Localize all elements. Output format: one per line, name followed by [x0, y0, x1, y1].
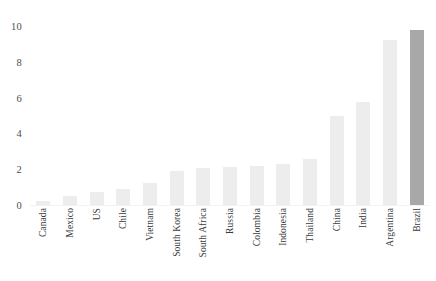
bar-slot: [303, 26, 317, 205]
x-axis-tick-label: Indonesia: [278, 208, 288, 246]
bar-india[interactable]: [356, 102, 370, 205]
y-axis: 0246810: [0, 0, 30, 281]
bar-slot: [330, 26, 344, 205]
bar-slot: [116, 26, 130, 205]
bar-slot: [143, 26, 157, 205]
bar-slot: [250, 26, 264, 205]
x-axis-tick-label: US: [92, 208, 102, 220]
x-axis-baseline: [30, 205, 430, 206]
bar-south-africa[interactable]: [196, 168, 210, 205]
x-axis-labels: CanadaMexicoUSChileVietnamSouth KoreaSou…: [30, 208, 430, 281]
bar-argentina[interactable]: [383, 40, 397, 205]
x-axis-tick-label: Vietnam: [145, 208, 155, 241]
bar-slot: [383, 26, 397, 205]
bar-chart: 0246810 CanadaMexicoUSChileVietnamSouth …: [0, 0, 436, 281]
bar-vietnam[interactable]: [143, 183, 157, 205]
y-axis-tick-label: 8: [17, 56, 22, 67]
bar-slot: [356, 26, 370, 205]
bar-brazil[interactable]: [410, 30, 424, 205]
x-axis-tick-label: Brazil: [412, 208, 422, 232]
bar-slot: [276, 26, 290, 205]
bar-indonesia[interactable]: [276, 164, 290, 205]
y-axis-tick-label: 2: [17, 164, 22, 175]
x-axis-tick-label: Chile: [118, 208, 128, 229]
bar-canada[interactable]: [36, 201, 50, 205]
y-axis-tick-label: 4: [17, 128, 22, 139]
bar-china[interactable]: [330, 116, 344, 206]
bar-slot: [90, 26, 104, 205]
bar-slot: [410, 26, 424, 205]
y-axis-tick-label: 10: [11, 21, 22, 32]
x-axis-tick-label: Mexico: [65, 208, 75, 238]
y-axis-tick-label: 0: [17, 200, 22, 211]
bars-container: [30, 26, 430, 205]
x-axis-tick-label: Colombia: [252, 208, 262, 246]
bar-slot: [223, 26, 237, 205]
bar-south-korea[interactable]: [170, 171, 184, 205]
x-axis-tick-label: South Africa: [198, 208, 208, 257]
x-axis-tick-label: Russia: [225, 208, 235, 234]
x-axis-tick-label: Canada: [38, 208, 48, 237]
x-axis-tick-label: India: [358, 208, 368, 228]
bar-chile[interactable]: [116, 189, 130, 205]
bar-slot: [170, 26, 184, 205]
bar-slot: [63, 26, 77, 205]
bar-slot: [196, 26, 210, 205]
x-axis-tick-label: Thailand: [305, 208, 315, 243]
bar-colombia[interactable]: [250, 166, 264, 205]
bar-russia[interactable]: [223, 167, 237, 205]
y-axis-tick-label: 6: [17, 92, 22, 103]
bar-slot: [36, 26, 50, 205]
bar-us[interactable]: [90, 192, 104, 205]
bar-mexico[interactable]: [63, 196, 77, 205]
x-axis-tick-label: China: [332, 208, 342, 231]
bar-thailand[interactable]: [303, 159, 317, 205]
x-axis-tick-label: Argentina: [385, 208, 395, 247]
x-axis-tick-label: South Korea: [172, 208, 182, 257]
